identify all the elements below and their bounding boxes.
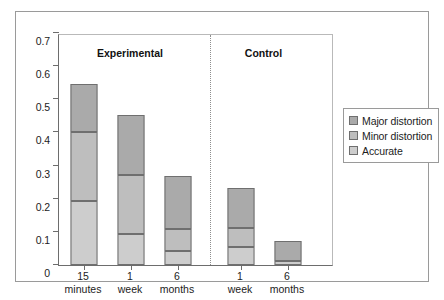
y-axis-tick — [53, 165, 59, 166]
legend-item[interactable]: Minor distortion — [349, 128, 432, 143]
x-axis-label: 1week — [118, 270, 143, 296]
y-axis-tick — [53, 98, 59, 99]
x-axis-label-line: 6 — [160, 270, 194, 283]
y-axis-tick — [53, 264, 59, 265]
x-axis-label-line: months — [160, 283, 194, 296]
bar-segment-major-distortion — [165, 176, 192, 229]
x-axis-label: 6months — [270, 270, 304, 296]
chart-figure: 00.10.20.30.40.50.60.7 ExperimentalContr… — [0, 0, 444, 300]
plot-area: 00.10.20.30.40.50.60.7 — [58, 34, 333, 266]
group-title-control: Control — [245, 47, 282, 59]
legend-swatch-icon — [349, 146, 358, 155]
group-title-experimental: Experimental — [97, 47, 163, 59]
figure-frame: 00.10.20.30.40.50.60.7 ExperimentalContr… — [15, 11, 429, 282]
x-axis-label-line: week — [118, 283, 143, 296]
bar-segment-minor-distortion — [165, 229, 192, 251]
bar-segment-minor-distortion — [118, 175, 145, 234]
bar-segment-minor-distortion — [228, 228, 255, 247]
y-axis-tick — [53, 131, 59, 132]
bar-segment-major-distortion — [228, 188, 255, 228]
legend-item-label: Accurate — [362, 145, 403, 157]
bar-segment-accurate — [275, 261, 302, 265]
x-axis-label: 1week — [228, 270, 253, 296]
chart-legend: Major distortionMinor distortionAccurate — [343, 108, 439, 163]
bar-segment-minor-distortion — [71, 132, 98, 201]
legend-item-label: Minor distortion — [362, 130, 432, 142]
y-axis-tick — [53, 198, 59, 199]
bar-segment-major-distortion — [275, 241, 302, 261]
legend-swatch-icon — [349, 131, 358, 140]
legend-item-label: Major distortion — [362, 115, 432, 127]
y-axis-tick — [53, 231, 59, 232]
x-axis-label-line: week — [228, 283, 253, 296]
bar-segment-major-distortion — [118, 115, 145, 175]
bar-segment-accurate — [165, 251, 192, 265]
stacked-bar — [118, 115, 145, 265]
legend-item[interactable]: Major distortion — [349, 113, 432, 128]
stacked-bar — [165, 176, 192, 265]
bar-segment-accurate — [71, 201, 98, 265]
bar-segment-major-distortion — [71, 84, 98, 132]
group-divider — [210, 35, 211, 265]
bar-segment-accurate — [228, 247, 255, 265]
legend-swatch-icon — [349, 116, 358, 125]
x-axis-label-line: months — [270, 283, 304, 296]
y-axis-tick — [53, 32, 59, 33]
bar-segment-accurate — [118, 234, 145, 265]
x-axis-label-line: 15 — [65, 270, 102, 283]
y-axis-tick — [53, 65, 59, 66]
x-axis-label-line: 1 — [228, 270, 253, 283]
stacked-bar — [71, 84, 98, 265]
legend-item[interactable]: Accurate — [349, 143, 432, 158]
stacked-bar — [228, 188, 255, 265]
x-axis-label: 6months — [160, 270, 194, 296]
x-axis-label-line: minutes — [65, 283, 102, 296]
x-axis-label-line: 1 — [118, 270, 143, 283]
x-axis-label: 15minutes — [65, 270, 102, 296]
x-axis-label-line: 6 — [270, 270, 304, 283]
stacked-bar — [275, 241, 302, 265]
